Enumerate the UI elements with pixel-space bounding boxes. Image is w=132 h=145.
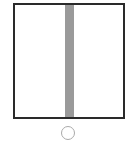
vertical-gray-bar	[65, 5, 74, 117]
circle-indicator-icon[interactable]	[61, 126, 75, 140]
square-frame	[13, 3, 125, 119]
